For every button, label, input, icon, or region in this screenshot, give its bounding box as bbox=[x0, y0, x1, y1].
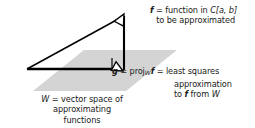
w-annotation: W = vector space of approximating functi… bbox=[34, 94, 130, 125]
interval-ab: [a, b] bbox=[216, 5, 237, 15]
f-annotation: f = function in C[a, b] to be approximat… bbox=[150, 5, 237, 26]
g-annotation-least-squares-text: = least squares bbox=[154, 66, 219, 76]
w-annotation-line3: functions bbox=[34, 115, 130, 125]
space-W-symbol-from: W bbox=[212, 89, 220, 99]
least-squares-projection-figure: f = function in C[a, b] to be approximat… bbox=[0, 0, 255, 128]
g-annotation-line2: approximation bbox=[112, 79, 232, 89]
g-annotation-proj-text: = proj bbox=[118, 66, 145, 76]
g-annotation-line3-mid: from bbox=[188, 89, 212, 99]
vector-f-arrowhead bbox=[114, 12, 128, 27]
f-annotation-line1-text: = function in bbox=[153, 5, 210, 15]
w-annotation-line1-text: = vector space of bbox=[49, 94, 122, 104]
w-annotation-line1: W = vector space of bbox=[34, 94, 130, 104]
g-annotation-line1: g = projWf = least squares bbox=[112, 66, 232, 79]
w-annotation-line2: approximating bbox=[34, 104, 130, 114]
g-annotation-line3-pre: to bbox=[174, 89, 185, 99]
f-annotation-line1: f = function in C[a, b] bbox=[150, 5, 237, 15]
f-annotation-line2: to be approximated bbox=[150, 15, 237, 25]
